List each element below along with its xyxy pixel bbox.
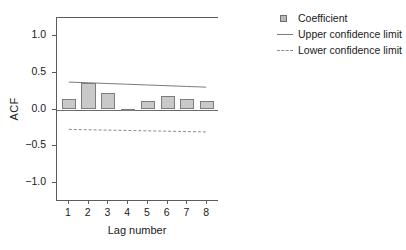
solid-line-icon	[276, 28, 298, 40]
x-tick-mark	[107, 200, 108, 204]
dashed-line-icon	[276, 44, 298, 56]
confidence-limits-layer	[57, 18, 218, 200]
x-axis-title: Lag number	[56, 224, 218, 236]
acf-chart: ACF 1.00.50.0−0.5−1.0 12345678 Lag numbe…	[0, 0, 406, 250]
plot-area	[57, 18, 218, 200]
y-tick-label: 1.0	[12, 29, 46, 40]
plot-frame	[56, 17, 218, 200]
upper-confidence-limit-line	[69, 82, 206, 87]
legend-item: Coefficient	[276, 11, 404, 25]
lower-confidence-limit-line	[69, 129, 206, 132]
x-tick-mark	[206, 200, 207, 204]
x-tick-label: 8	[196, 206, 216, 218]
x-tick-mark	[68, 200, 69, 204]
x-tick-mark	[167, 200, 168, 204]
legend-label: Coefficient	[298, 13, 347, 24]
y-tick-label: 0.0	[12, 103, 46, 114]
x-tick-mark	[147, 200, 148, 204]
x-tick-label: 5	[137, 206, 157, 218]
x-tick-mark	[186, 200, 187, 204]
legend-item: Upper confidence limit	[276, 27, 404, 41]
x-tick-label: 6	[157, 206, 177, 218]
legend-label: Upper confidence limit	[298, 29, 402, 40]
x-tick-mark	[127, 200, 128, 204]
x-tick-mark	[88, 200, 89, 204]
y-tick-label: 0.5	[12, 66, 46, 77]
y-tick-label: −1.0	[12, 176, 46, 187]
square-swatch-icon	[276, 12, 298, 24]
x-tick-label: 2	[78, 206, 98, 218]
x-tick-label: 3	[97, 206, 117, 218]
y-tick-label: −0.5	[12, 139, 46, 150]
x-tick-label: 7	[176, 206, 196, 218]
chart-legend: CoefficientUpper confidence limitLower c…	[276, 11, 404, 59]
x-tick-label: 1	[58, 206, 78, 218]
legend-label: Lower confidence limit	[298, 45, 402, 56]
legend-item: Lower confidence limit	[276, 43, 404, 57]
x-axis-line	[56, 200, 218, 201]
x-tick-label: 4	[117, 206, 137, 218]
